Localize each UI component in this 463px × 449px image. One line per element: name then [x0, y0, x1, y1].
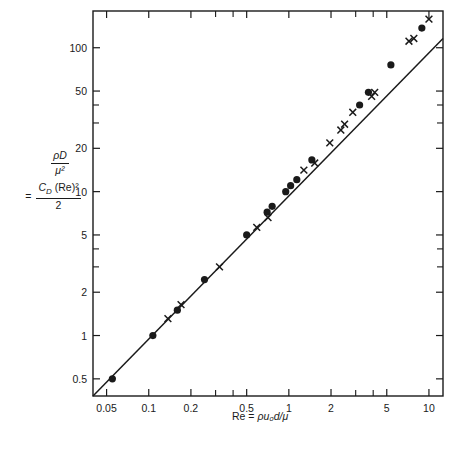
cd-symbol: C	[38, 181, 46, 193]
y-label-fraction-1: ρD μ²	[51, 150, 69, 176]
data-point-dot	[418, 24, 425, 31]
data-point-dot	[149, 332, 156, 339]
y-tick-label: 1	[81, 330, 87, 342]
data-point-cross	[371, 89, 378, 96]
data-point-dot	[243, 231, 250, 238]
log-log-scatter-chart: 0.050.10.20.512510 0.5125102050100	[0, 0, 463, 449]
plot-border	[93, 11, 443, 396]
data-point-dot	[201, 276, 208, 283]
y-label-numerator: ρD	[51, 150, 69, 164]
data-point-dot	[387, 61, 394, 68]
data-series	[93, 16, 443, 396]
x-tick-label: 0.1	[141, 402, 156, 414]
y-label-fraction-2: CD (Re)² 2	[36, 182, 80, 211]
y-axis-ticks: 0.5125102050100	[69, 42, 443, 385]
x-tick-label: 10	[423, 402, 435, 414]
data-point-dot	[356, 101, 363, 108]
x-label-prefix: Re =	[232, 410, 257, 422]
equals-sign: =	[25, 191, 31, 203]
data-point-dot	[293, 176, 300, 183]
x-tick-label: 0.05	[96, 402, 117, 414]
x-tick-label: 5	[384, 402, 390, 414]
y-tick-label: 5	[81, 229, 87, 241]
data-point-cross	[337, 127, 344, 134]
y-tick-label: 100	[69, 42, 87, 54]
y-tick-label: 2	[81, 286, 87, 298]
data-point-dot	[109, 375, 116, 382]
x-label-expression: ρu₀d/μ	[257, 410, 288, 422]
re-squared: (Re)²	[52, 181, 79, 193]
data-point-cross	[326, 140, 333, 147]
plot-frame	[93, 11, 443, 396]
data-point-cross	[341, 121, 348, 128]
y-label-numerator-2: CD (Re)²	[36, 182, 80, 199]
y-tick-label: 0.5	[72, 373, 87, 385]
data-point-dot	[269, 203, 276, 210]
data-point-cross	[165, 315, 172, 322]
x-tick-label: 0.2	[184, 402, 199, 414]
y-tick-label: 50	[75, 85, 87, 97]
y-axis-label: ρD μ² = CD (Re)² 2	[18, 150, 88, 212]
data-point-dot	[287, 182, 294, 189]
data-point-cross	[349, 109, 356, 116]
x-axis-label: Re = ρu₀d/μ	[232, 410, 288, 422]
y-label-denominator: μ²	[51, 164, 69, 177]
data-point-dot	[282, 188, 289, 195]
y-label-denominator-2: 2	[36, 199, 80, 212]
data-point-cross	[216, 263, 223, 270]
data-point-cross	[300, 167, 307, 174]
x-tick-label: 2	[328, 402, 334, 414]
